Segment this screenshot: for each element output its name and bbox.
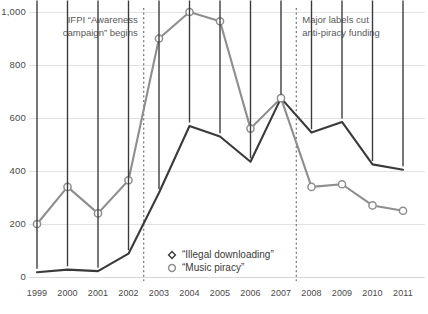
y-axis-tick-label: 400 [10,165,26,176]
x-axis-tick-label: 1999 [27,288,47,298]
circle-marker-icon [369,202,376,209]
x-axis-tick-label: 2004 [179,288,199,298]
x-axis-tick-label: 2005 [210,288,230,298]
annotation-text-ifpi-campaign: campaign” begins [63,27,138,38]
markers-illegal-downloading [37,0,403,268]
x-axis-tick-label: 2000 [57,288,77,298]
x-axis-tick-label: 2001 [88,288,108,298]
x-axis-tick-label: 2007 [271,288,291,298]
x-axis-tick-label: 2011 [393,288,413,298]
diamond-marker-icon [169,252,176,259]
x-axis-tick-label: 2010 [362,288,382,298]
y-axis-tick-label: 800 [10,59,26,70]
x-axis-tick-label: 2009 [332,288,352,298]
circle-marker-icon [277,95,284,102]
x-axis-tick-labels: 1999200020012002200320042005200620072008… [27,288,413,298]
chart-legend: “Illegal downloading”“Music piracy” [169,249,274,273]
legend-item-label[interactable]: “Music piracy” [182,262,244,273]
circle-marker-icon [399,207,406,214]
annotation-text-labels-funding-cut: anti-piracy funding [302,27,380,38]
y-axis-tick-labels: 02004006008001,000 [1,6,26,282]
line-chart-plot: 02004006008001,000 IFPI “Awarenesscampai… [0,0,428,314]
chart-container: 02004006008001,000 IFPI “Awarenesscampai… [0,0,428,314]
y-axis-tick-label: 600 [10,112,26,123]
x-axis-tick-label: 2002 [118,288,138,298]
annotation-text-labels-funding-cut: Major labels cut [302,14,369,25]
circle-marker-icon [338,181,345,188]
legend-item-label[interactable]: “Illegal downloading” [182,249,274,260]
circle-marker-icon [169,265,176,272]
y-axis-tick-label: 200 [10,218,26,229]
x-axis-tick-label: 2003 [149,288,169,298]
gridlines-group [29,12,425,277]
x-axis-tick-label: 2006 [240,288,260,298]
circle-marker-icon [308,183,315,190]
annotation-text-ifpi-campaign: IFPI “Awareness [68,14,138,25]
y-axis-tick-label: 1,000 [1,6,26,17]
y-axis-tick-label: 0 [21,271,26,282]
x-axis-tick-label: 2008 [301,288,321,298]
